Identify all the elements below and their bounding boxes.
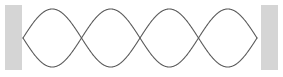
left-wall xyxy=(5,5,22,70)
standing-wave-figure xyxy=(0,0,283,77)
wave-envelope-lower-curve xyxy=(23,9,257,67)
standing-wave-canvas xyxy=(0,0,283,77)
right-wall xyxy=(261,5,278,70)
